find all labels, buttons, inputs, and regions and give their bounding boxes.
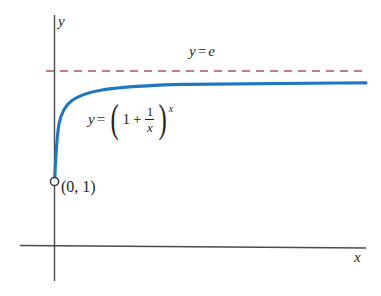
equation-equals: = [95,112,108,127]
open-point-marker [50,177,58,185]
equation-open-paren: ( [111,103,119,136]
equation-fraction-numerator: 1 [147,105,154,118]
equation-close-paren: ) [159,103,167,136]
equation-inner: 1 + 1 x [121,105,156,135]
point-label: (0, 1) [61,179,96,195]
equation-fraction: 1 x [144,105,155,135]
figure-canvas: y x y=e y = ( 1 + 1 x ) x (0, 1) [0,0,381,296]
equation-plus: + [130,112,144,127]
asymptote-label-y: y [189,43,196,59]
equation-exponent: x [169,104,173,114]
curve-equation-label: y = ( 1 + 1 x ) x [88,103,173,136]
y-axis-label: y [58,14,65,29]
asymptote-label-equals: = [196,43,208,59]
equation-fraction-denominator: x [147,121,153,134]
x-axis-label: x [354,250,361,265]
asymptote-label-e: e [208,43,215,59]
asymptote-label: y=e [189,44,215,59]
x-axis-line [20,246,366,249]
equation-lhs: y [88,112,95,127]
equation-one: 1 [122,112,130,127]
